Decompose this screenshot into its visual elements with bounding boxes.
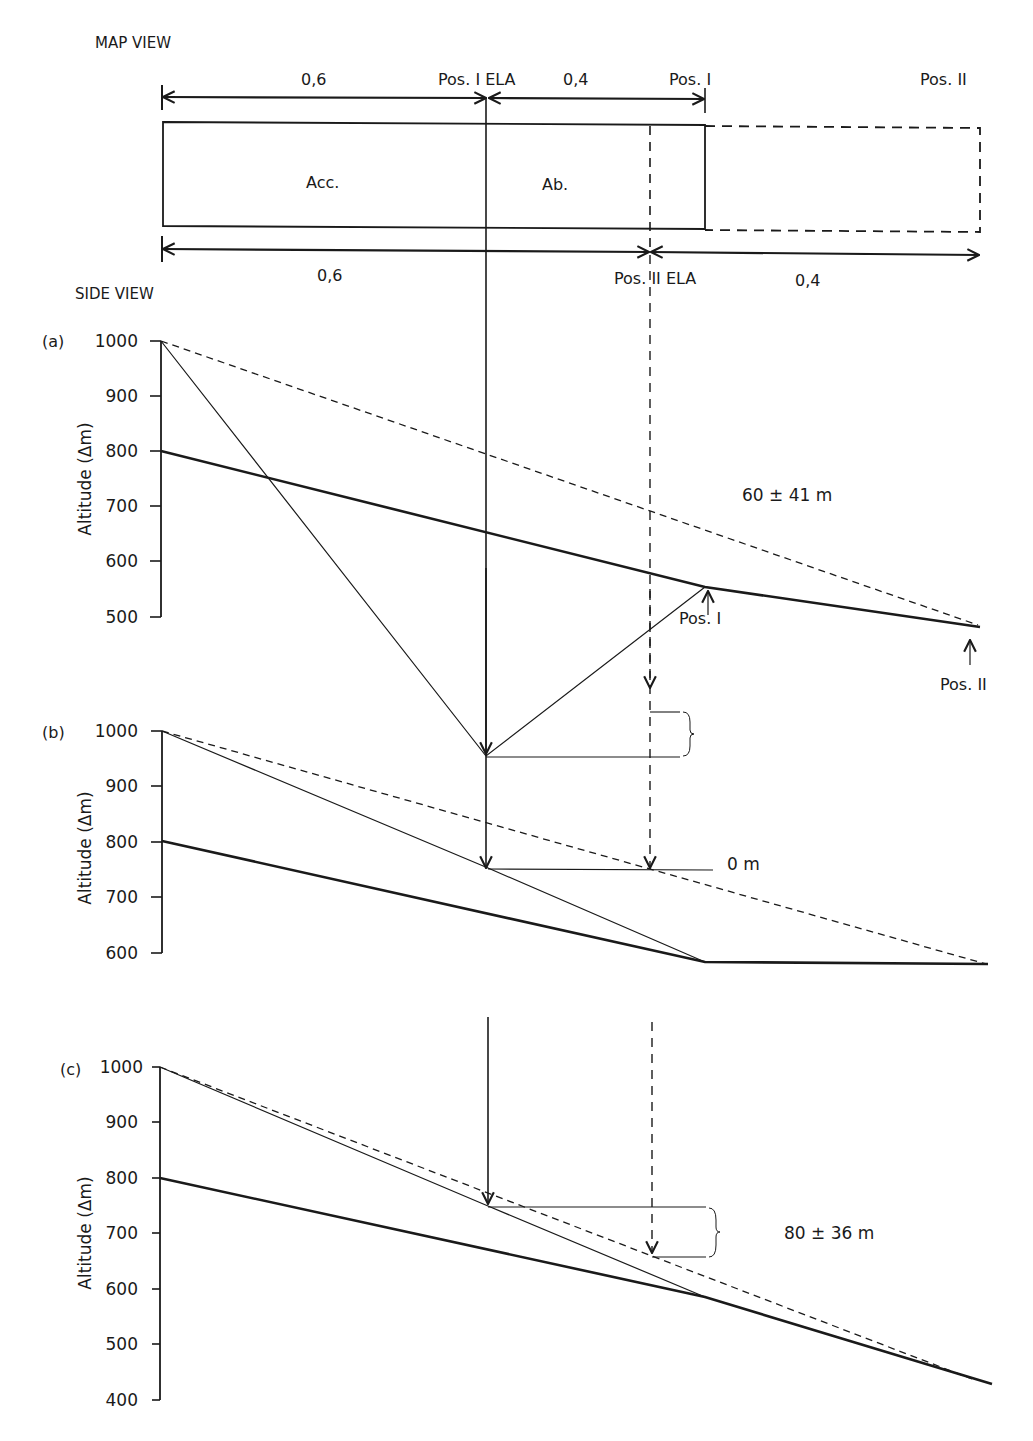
ela-difference-label: 60 ± 41 m [742, 485, 832, 505]
glacier-outline-pos2 [705, 126, 980, 232]
y-ticks: 1000 900 800 700 600 500 [95, 331, 161, 627]
tick-label: 900 [106, 386, 138, 406]
tick-label: 900 [106, 1112, 138, 1132]
tick-label: 900 [106, 776, 138, 796]
tick-label: 700 [106, 887, 138, 907]
ice-surface-pos2 [162, 731, 986, 964]
marker-pos1: Pos. I [669, 70, 711, 89]
zone-ablation: Ab. [542, 175, 568, 194]
tick-label: 800 [106, 832, 138, 852]
bed-profile [161, 451, 980, 627]
side-view-title: SIDE VIEW [75, 285, 154, 303]
y-axis-label: Altitude (Δm) [75, 791, 95, 904]
pos1-label: Pos. I [679, 609, 721, 628]
ela-difference-label: 0 m [727, 854, 760, 874]
y-axis-label: Altitude (Δm) [75, 1176, 95, 1289]
tick-label: 400 [106, 1390, 138, 1410]
tick-label: 800 [106, 1168, 138, 1188]
panel-a: (a) 1000 900 800 700 600 500 Altitude (Δ… [42, 331, 987, 757]
y-axis-label: Altitude (Δm) [75, 422, 95, 535]
tick-label: 1000 [100, 1057, 143, 1077]
panel-tag: (a) [42, 332, 64, 351]
y-ticks: 1000 900 800 700 600 [95, 721, 162, 963]
glacier-outline-pos1 [163, 122, 705, 229]
marker-pos1-ela: Pos. I ELA [438, 70, 516, 89]
tick-label: 700 [106, 496, 138, 516]
ice-surface-pos1 [162, 731, 705, 962]
dim-label-top-0-6: 0,6 [301, 70, 326, 89]
dim-label-top-0-4: 0,4 [563, 70, 588, 89]
zone-accumulation: Acc. [306, 173, 339, 192]
dim-label-bottom-0-4: 0,4 [795, 271, 820, 290]
panel-tag: (c) [60, 1060, 81, 1079]
tick-label: 700 [106, 1223, 138, 1243]
tick-label: 800 [106, 441, 138, 461]
panel-tag: (b) [42, 723, 65, 742]
tick-label: 600 [106, 1279, 138, 1299]
dim-arrow-bottom-acc [163, 249, 649, 252]
ela-difference-label: 80 ± 36 m [784, 1223, 874, 1243]
dim-arrow-top-acc [163, 97, 486, 98]
pos2-label: Pos. II [940, 675, 987, 694]
ice-surface-pos1 [161, 341, 705, 756]
marker-pos2-ela: Pos. II ELA [614, 269, 696, 288]
tick-label: 1000 [95, 331, 138, 351]
ela-level [488, 869, 713, 870]
dim-arrow-top-ab [489, 98, 704, 99]
brace-icon [683, 712, 694, 756]
bed-profile [162, 841, 988, 964]
panel-c: (c) 1000 900 800 700 600 500 400 Altitud… [60, 1057, 992, 1410]
tick-label: 1000 [95, 721, 138, 741]
tick-label: 500 [106, 1334, 138, 1354]
map-view: MAP VIEW 0,6 Pos. I ELA 0,4 Pos. I Pos. … [95, 34, 980, 290]
marker-pos2: Pos. II [920, 70, 967, 89]
bed-profile [160, 1178, 992, 1384]
tick-label: 600 [106, 943, 138, 963]
ice-surface-pos1 [160, 1067, 705, 1297]
y-ticks: 1000 900 800 700 600 500 400 [100, 1057, 160, 1410]
map-view-title: MAP VIEW [95, 34, 171, 52]
brace-icon [709, 1208, 720, 1257]
dim-arrow-bottom-ab [651, 252, 979, 255]
ice-surface-pos2 [161, 341, 978, 625]
glacier-ela-diagram: MAP VIEW 0,6 Pos. I ELA 0,4 Pos. I Pos. … [0, 0, 1033, 1441]
tick-label: 500 [106, 607, 138, 627]
tick-label: 600 [106, 551, 138, 571]
dim-label-bottom-0-6: 0,6 [317, 266, 342, 285]
